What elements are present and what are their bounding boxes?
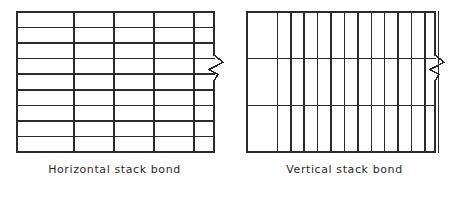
caption-horizontal-stack-bond: Horizontal stack bond bbox=[0, 163, 229, 176]
panel-horizontal-stack-bond: Horizontal stack bond bbox=[0, 0, 229, 197]
vertical-stack-bond-diagram bbox=[230, 0, 459, 162]
panel-vertical-stack-bond: Vertical stack bond bbox=[230, 0, 459, 197]
caption-vertical-stack-bond: Vertical stack bond bbox=[230, 163, 459, 176]
figure-root: Horizontal stack bond Vertical stack bon… bbox=[0, 0, 459, 197]
horizontal-stack-bond-diagram bbox=[0, 0, 229, 162]
